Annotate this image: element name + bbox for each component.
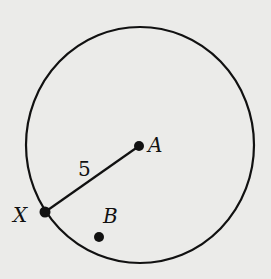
radius-segment-xa <box>45 146 139 212</box>
length-label: 5 <box>78 157 91 181</box>
label-b: B <box>102 204 118 228</box>
point-b <box>94 232 104 242</box>
point-x <box>40 207 51 218</box>
label-a: A <box>146 133 162 157</box>
point-a <box>134 141 144 151</box>
circle-diagram: A X B 5 <box>0 0 271 279</box>
label-x: X <box>11 203 28 227</box>
